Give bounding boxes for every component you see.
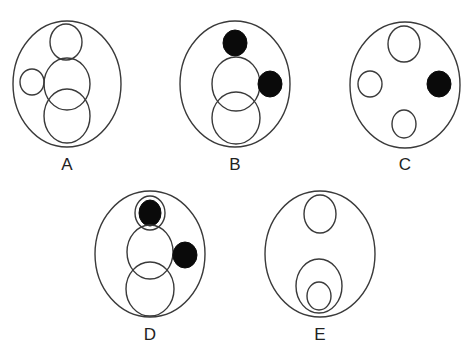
figure-a: A [13,21,121,174]
figure-label: D [144,325,156,344]
hollow-circle [44,89,90,143]
hollow-circle [358,71,382,97]
hollow-circle [296,259,342,313]
filled-circle [258,71,282,97]
hollow-circle [304,195,336,233]
figure-label: C [399,155,411,174]
figure-label: E [314,325,325,344]
figure-c: C [350,22,460,174]
hollow-circle [50,24,82,60]
hollow-circle [212,92,260,144]
figure-label: B [229,155,240,174]
hollow-circle [126,262,174,316]
hollow-circle [44,58,90,110]
figure-b: B [180,21,290,174]
hollow-circle [212,57,260,111]
hollow-circle [20,69,44,95]
hollow-circle [392,110,416,138]
hollow-circle [127,225,173,279]
filled-circle [139,200,161,226]
hollow-circle [307,282,331,310]
figure-d: D [95,191,205,344]
figure-e: E [265,191,375,344]
outer-circle [13,21,121,147]
hollow-circle [388,26,420,62]
filled-circle [223,30,247,56]
outer-circle [265,191,375,317]
filled-circle [173,242,197,268]
filled-circle [427,71,451,97]
figure-label: A [61,155,73,174]
circles-diagram: ABCDE [0,0,463,352]
